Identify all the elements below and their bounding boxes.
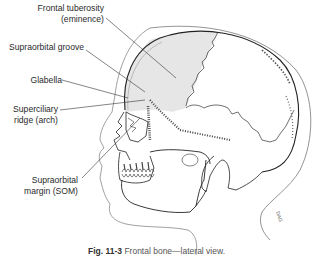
mastoid-process [222,160,262,190]
caption-text: Frontal bone—lateral view. [124,246,225,256]
label-frontal-tuberosity: Frontal tuberosity (eminence) [38,3,104,25]
label-superciliary-ridge-line2: ridge (arch) [13,115,58,126]
label-supraorbital-groove-line1: Supraorbital groove [9,42,84,53]
label-supraorbital-margin: Supraorbital margin (SOM) [24,175,78,197]
label-glabella-line1: Glabella [30,75,62,86]
caption-prefix: Fig. 11-3 [88,246,122,256]
nasal-outline [114,112,130,160]
frontal-bone-shaded [124,31,218,112]
label-frontal-tuberosity-line1: Frontal tuberosity [38,3,104,14]
label-supraorbital-groove: Supraorbital groove [9,42,84,53]
artist-signature: DAG [275,210,284,222]
figure-caption: Fig. 11-3 Frontal bone—lateral view. [0,246,313,256]
label-supraorbital-margin-line2: margin (SOM) [24,186,78,197]
label-superciliary-ridge-line1: Superciliary [13,104,58,115]
zygomatic-arch [150,150,210,164]
label-frontal-tuberosity-line2: (eminence) [38,14,104,25]
orbit-outline [126,112,148,142]
label-supraorbital-margin-line1: Supraorbital [24,175,78,186]
mandible-outline [122,160,207,213]
leader-glabella [62,80,128,98]
label-glabella: Glabella [30,75,62,86]
squamous-suture [186,105,294,142]
teeth [122,162,154,177]
label-superciliary-ridge: Superciliary ridge (arch) [13,104,58,126]
